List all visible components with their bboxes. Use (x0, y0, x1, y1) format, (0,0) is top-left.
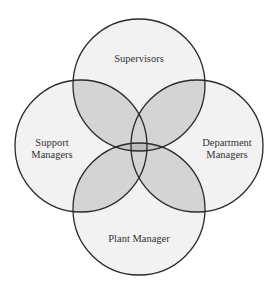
label-department-line2: Managers (193, 149, 261, 161)
label-plant-manager: Plant Manager (99, 233, 179, 245)
label-supervisors: Supervisors (104, 53, 174, 65)
label-support-line2: Managers (18, 149, 86, 161)
label-department-managers: Department Managers (193, 137, 261, 161)
label-department-line1: Department (193, 137, 261, 149)
label-support-line1: Support (18, 137, 86, 149)
label-support-managers: Support Managers (18, 137, 86, 161)
venn-diagram: Supervisors Support Managers Department … (0, 0, 278, 290)
